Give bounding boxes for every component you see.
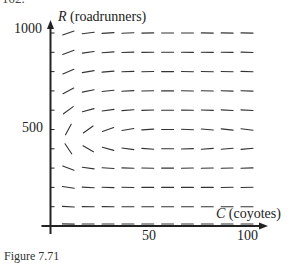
slope-segment xyxy=(82,52,94,54)
slope-segment xyxy=(63,31,74,35)
slope-segment xyxy=(201,148,213,149)
slope-segment xyxy=(122,110,134,111)
slope-segment xyxy=(64,107,74,114)
slope-segment xyxy=(122,129,134,131)
slope-segment xyxy=(82,167,94,169)
slope-segment xyxy=(182,129,194,130)
slope-segment xyxy=(241,129,253,131)
slope-segment xyxy=(82,32,94,34)
slope-segment xyxy=(102,90,114,91)
slope-segment xyxy=(83,146,93,152)
x-axis-label: C (coyotes) xyxy=(216,207,281,221)
slope-segment xyxy=(63,50,74,54)
slope-segment xyxy=(241,110,253,111)
slope-segment xyxy=(102,52,114,53)
x-axis-arrow-icon xyxy=(259,223,268,230)
slope-segment xyxy=(62,206,74,207)
y-tick-label-1000: 1000 xyxy=(14,22,42,36)
slope-segment xyxy=(201,129,213,130)
slope-segment xyxy=(102,109,114,111)
slope-segment xyxy=(102,128,113,132)
slope-segment xyxy=(102,168,114,169)
slope-segment xyxy=(82,187,94,188)
slope-segment xyxy=(102,71,114,72)
slope-segments xyxy=(62,31,253,224)
slope-segment xyxy=(82,90,94,92)
slope-segment xyxy=(122,148,134,150)
x-axis-variable: C xyxy=(216,206,225,221)
slope-segment xyxy=(122,91,134,92)
slope-segment xyxy=(63,88,74,94)
slope-segment xyxy=(82,109,94,112)
slope-segment xyxy=(221,148,233,149)
y-tick-label-500: 500 xyxy=(22,121,43,135)
slope-segment xyxy=(65,144,72,154)
y-axis-variable: R xyxy=(58,9,67,24)
x-tick-label-50: 50 xyxy=(142,229,156,243)
slope-segment xyxy=(63,69,74,74)
slope-segment xyxy=(83,126,93,133)
figure-caption: Figure 7.71 xyxy=(4,249,59,264)
x-tick-label-100: 100 xyxy=(237,229,258,243)
slope-segment xyxy=(241,148,253,149)
y-axis-arrow-icon xyxy=(47,20,54,29)
slope-segment xyxy=(102,147,114,150)
slope-segment xyxy=(142,129,154,130)
slope-segment xyxy=(102,33,114,34)
y-axis-description: (roadrunners) xyxy=(70,9,146,24)
slope-segment xyxy=(142,148,154,149)
slope-segment xyxy=(62,187,74,189)
slope-segment xyxy=(221,129,233,130)
slope-segment xyxy=(82,71,94,73)
slope-segment xyxy=(63,166,74,170)
x-axis-description: (coyotes) xyxy=(229,206,281,221)
slope-segment xyxy=(66,124,72,135)
slope-segment xyxy=(221,110,233,111)
y-axis-label: R (roadrunners) xyxy=(58,10,146,24)
axes xyxy=(42,20,269,234)
